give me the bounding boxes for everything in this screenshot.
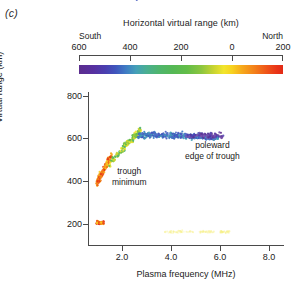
figure-panel-c: (c) Horizontal virtual range (km) South …	[0, 0, 302, 293]
scatter-plot-points	[0, 0, 302, 293]
